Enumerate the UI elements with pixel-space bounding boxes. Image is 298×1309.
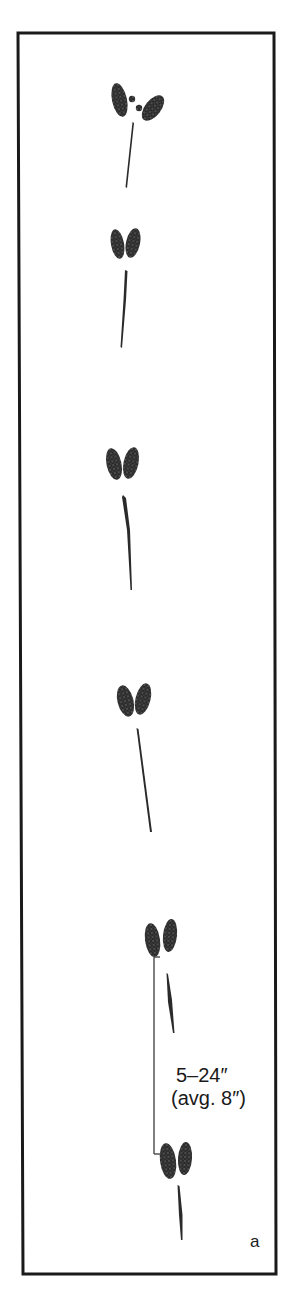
panel-label: a <box>250 1233 259 1251</box>
hoof-lobe-right <box>132 682 154 717</box>
hoof-lobe-left <box>143 922 163 958</box>
track-2 <box>108 227 142 348</box>
drag-line <box>167 973 175 1033</box>
track-1 <box>109 82 169 188</box>
track-4 <box>114 682 154 832</box>
drag-line <box>122 495 132 590</box>
stride-average-label: (avg. 8″) <box>171 1087 246 1109</box>
track-diagram <box>0 0 298 1309</box>
track-3 <box>103 446 141 590</box>
stride-range-label: 5–24″ <box>176 1064 228 1086</box>
drag-line <box>126 122 135 188</box>
hoof-lobe-right <box>120 446 141 480</box>
hoof-lobe-left <box>158 1142 179 1180</box>
drag-line <box>121 270 128 348</box>
track-6 <box>158 1142 194 1240</box>
hoof-lobe-left <box>114 684 137 719</box>
dewclaw-dot <box>129 96 135 102</box>
stride-bracket <box>154 957 163 1154</box>
hoof-lobe-left <box>109 82 131 118</box>
hoof-lobe-left <box>108 228 126 260</box>
drag-line <box>178 1185 183 1240</box>
hoof-lobe-right <box>161 918 178 952</box>
dewclaw-dot <box>136 105 142 111</box>
hoof-lobe-left <box>103 447 124 481</box>
drag-line <box>137 728 153 832</box>
track-5 <box>143 918 179 1033</box>
hoof-lobe-right <box>177 1142 193 1176</box>
hoof-lobe-right <box>123 227 143 259</box>
